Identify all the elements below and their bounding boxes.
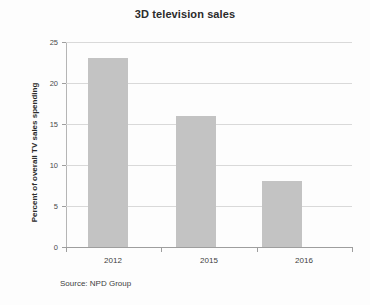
bar-2015[interactable] bbox=[176, 116, 216, 247]
source-note: Source: NPD Group bbox=[60, 279, 131, 288]
y-tick-mark-5 bbox=[62, 206, 66, 207]
x-tick-label-2016: 2016 bbox=[274, 256, 334, 265]
y-tick-mark-15 bbox=[62, 124, 66, 125]
chart-title: 3D television sales bbox=[0, 8, 370, 20]
x-tick-label-2012: 2012 bbox=[83, 256, 143, 265]
x-tick-mark-3 bbox=[352, 248, 353, 252]
y-tick-mark-20 bbox=[62, 83, 66, 84]
y-tick-mark-25 bbox=[62, 42, 66, 43]
y-tick-label-5: 5 bbox=[32, 202, 58, 211]
y-tick-label-25: 25 bbox=[32, 38, 58, 47]
y-tick-label-15: 15 bbox=[32, 120, 58, 129]
y-tick-label-0: 0 bbox=[32, 243, 58, 252]
x-axis-line bbox=[66, 247, 353, 248]
gridline-25 bbox=[66, 42, 352, 43]
x-tick-label-2015: 2015 bbox=[179, 256, 239, 265]
bar-2016[interactable] bbox=[262, 181, 302, 247]
x-tick-mark-1 bbox=[161, 248, 162, 252]
bar-2012[interactable] bbox=[88, 58, 128, 247]
y-tick-label-20: 20 bbox=[32, 79, 58, 88]
x-tick-mark-0 bbox=[66, 248, 67, 252]
plot-area bbox=[66, 42, 352, 247]
x-tick-mark-2 bbox=[257, 248, 258, 252]
y-tick-label-10: 10 bbox=[32, 161, 58, 170]
y-tick-mark-10 bbox=[62, 165, 66, 166]
